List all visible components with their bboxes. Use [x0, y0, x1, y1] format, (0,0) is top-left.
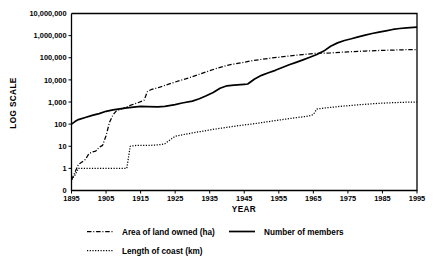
x-tick-label: 1975 [340, 194, 356, 203]
x-tick-label: 1985 [374, 194, 390, 203]
y-tick-label: 100 [54, 120, 66, 129]
y-axis-title: LOG SCALE [9, 77, 18, 129]
x-tick-label: 1965 [305, 194, 321, 203]
x-tick-label: 1905 [98, 194, 114, 203]
y-tick-label: 1,000 [48, 98, 67, 107]
x-tick-label: 1955 [271, 194, 287, 203]
x-axis-title: YEAR [232, 205, 256, 214]
x-tick-label: 1995 [409, 194, 425, 203]
log-scale-line-chart: 10,000,0001,000,000100,00010,0001,000100… [0, 0, 435, 264]
x-tick-label: 1895 [63, 194, 79, 203]
y-tick-label: 1,000,000 [34, 31, 67, 40]
y-tick-label: 10,000,000 [30, 9, 67, 18]
legend-label-members: Number of members [264, 228, 344, 237]
chart-container: 10,000,0001,000,000100,00010,0001,000100… [0, 0, 435, 264]
x-tick-label: 1945 [236, 194, 252, 203]
legend-label-area: Area of land owned (ha) [122, 228, 215, 237]
y-tick-label: 1 [62, 164, 66, 173]
legend-label-coast: Length of coast (km) [122, 247, 203, 256]
y-tick-label: 10,000 [44, 76, 67, 85]
x-tick-label: 1935 [201, 194, 217, 203]
x-tick-label: 1915 [132, 194, 148, 203]
y-tick-label: 100,000 [40, 53, 67, 62]
y-tick-label: 10 [58, 142, 66, 151]
x-tick-label: 1925 [167, 194, 183, 203]
